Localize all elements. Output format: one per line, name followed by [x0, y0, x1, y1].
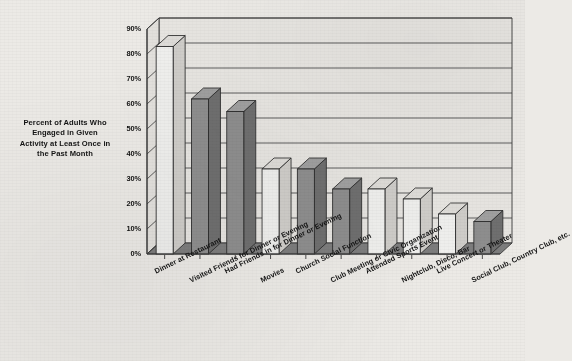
bar-front-face [227, 112, 244, 255]
y-axis-tick-label: 40% [115, 149, 141, 158]
bar-side-face [208, 88, 220, 254]
bar-3 [227, 101, 256, 255]
y-axis-tick-label: 20% [115, 199, 141, 208]
y-axis-tick-label: 90% [115, 24, 141, 33]
y-axis-tick-label: 0% [115, 249, 141, 258]
y-axis-tick-label: 30% [115, 174, 141, 183]
bar-front-face [156, 47, 173, 255]
bar-5 [297, 158, 326, 254]
y-axis-tick-label: 70% [115, 74, 141, 83]
y-axis-tick-label: 10% [115, 224, 141, 233]
bar-7 [368, 178, 397, 254]
bar-2 [191, 88, 220, 254]
bar-side-face [244, 101, 256, 255]
bar-side-face [314, 158, 326, 254]
bar-front-face [297, 169, 314, 254]
bar-side-face [385, 178, 397, 254]
bar-1 [156, 36, 185, 255]
bar-side-face [173, 36, 185, 255]
y-axis-tick-label: 80% [115, 49, 141, 58]
bar-front-face [191, 99, 208, 254]
y-axis-tick-label: 60% [115, 99, 141, 108]
y-axis-tick-label: 50% [115, 124, 141, 133]
bar-front-face [439, 214, 456, 254]
bar-front-face [368, 189, 385, 254]
